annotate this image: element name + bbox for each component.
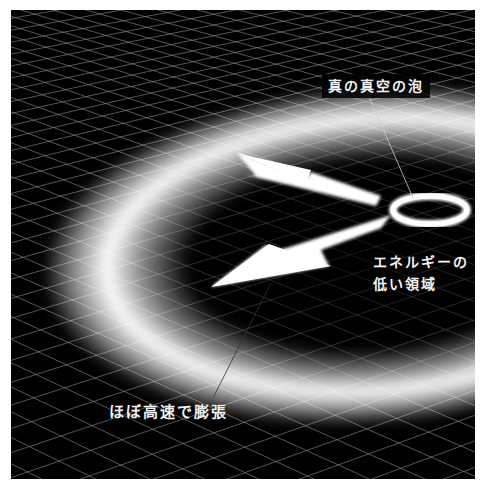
grid-line [11, 10, 475, 82]
label-expansion: ほぼ高速で膨張 [109, 402, 228, 422]
label-low-energy-line1: エネルギーの [373, 252, 469, 272]
label-low-energy-line2: 低い領域 [373, 274, 437, 294]
illustration-frame: 真の真空の泡 エネルギーの 低い領域 ほぼ高速で膨張 [11, 10, 475, 479]
grid-line [11, 10, 475, 53]
label-true-vacuum-bubble: 真の真空の泡 [322, 74, 430, 98]
